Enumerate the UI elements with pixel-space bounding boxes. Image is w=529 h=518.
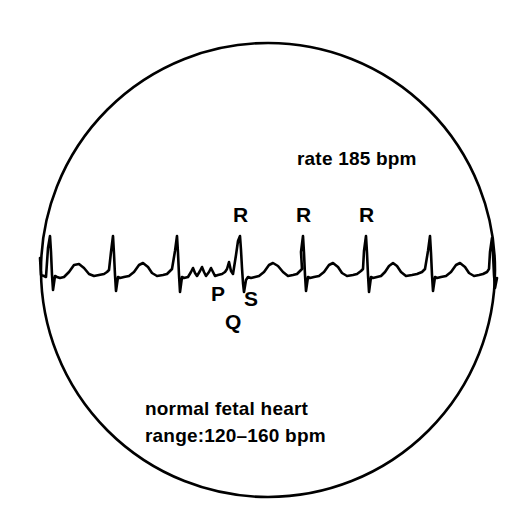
fetal-heart-ecg-figure: rate 185 bpm R R R P S Q normal fetal he… [0, 0, 529, 518]
caption-normal-range: range:120–160 bpm [145, 425, 326, 447]
r-wave-label-3: R [359, 204, 374, 225]
p-wave-label: P [211, 283, 225, 304]
r-wave-label-1: R [233, 204, 248, 225]
q-wave-label: Q [225, 311, 242, 332]
s-wave-label: S [244, 288, 258, 309]
heart-rate-label: rate 185 bpm [297, 148, 417, 170]
fetal-ecg-waveform [40, 236, 497, 292]
caption-normal-fetal-heart: normal fetal heart [145, 398, 308, 420]
r-wave-label-2: R [296, 204, 311, 225]
